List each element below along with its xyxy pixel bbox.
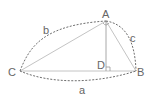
edge-ca — [20, 21, 106, 71]
label-a-vertex: A — [102, 8, 110, 20]
edge-ab — [106, 21, 136, 71]
label-b-vertex: B — [137, 66, 144, 78]
right-angle-marker — [106, 67, 110, 71]
label-c-vertex: C — [8, 66, 16, 78]
arc-a — [20, 71, 136, 81]
triangle-diagram: A B C D b c a — [0, 0, 153, 105]
label-side-a: a — [79, 84, 86, 96]
label-d-foot: D — [97, 59, 105, 71]
label-side-c: c — [130, 32, 136, 44]
label-side-b: b — [43, 24, 49, 36]
